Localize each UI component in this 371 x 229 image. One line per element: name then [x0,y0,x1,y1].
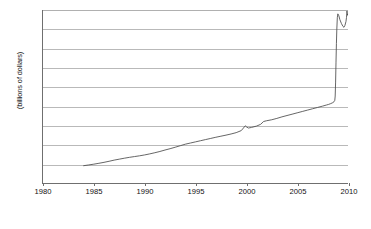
gridline [43,68,348,69]
gridline [43,145,348,146]
x-axis-tick-label: 1985 [86,187,103,196]
x-tick-mark [247,183,248,186]
series-line-total [84,11,348,166]
x-tick-mark [94,183,95,186]
gridline [43,107,348,108]
x-axis-tick-label: 1995 [188,187,205,196]
gridline [43,49,348,50]
x-tick-mark [145,183,146,186]
x-tick-mark [349,183,350,186]
gridline [43,10,348,11]
x-axis-tick-label: 1990 [137,187,154,196]
gridline [43,126,348,127]
x-axis-tick-label: 1980 [35,187,52,196]
plot-area: 1,8001,6001,4001,2001,0008006004002000 1… [42,10,348,184]
x-tick-mark [43,183,44,186]
y-axis-title: (billions of dollars) [15,6,24,156]
x-axis-tick-label: 2010 [341,187,358,196]
x-axis-tick-label: 2005 [290,187,307,196]
chart-container: (billions of dollars) 1,8001,6001,4001,2… [0,0,371,229]
gridline [43,87,348,88]
gridline [43,29,348,30]
x-tick-mark [298,183,299,186]
x-tick-mark [196,183,197,186]
x-axis-tick-label: 2000 [239,187,256,196]
gridline [43,165,348,166]
data-series-layer [43,10,348,183]
